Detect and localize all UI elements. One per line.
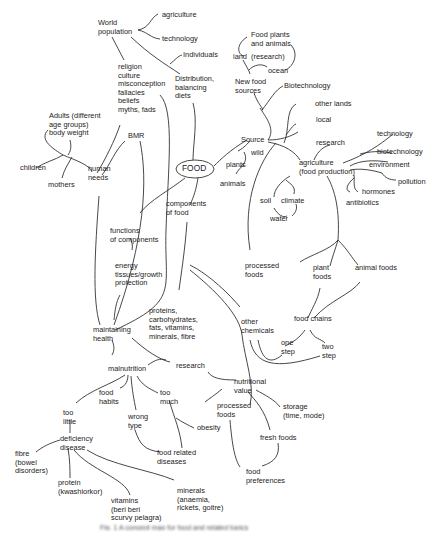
node-bmr: BMR bbox=[128, 132, 144, 141]
node-functions: functions of components bbox=[110, 227, 158, 244]
node-land: land bbox=[233, 53, 247, 62]
concept-map: World population agriculture technology … bbox=[0, 0, 440, 537]
node-components: components of food bbox=[166, 200, 206, 217]
node-mothers: mothers bbox=[48, 181, 75, 190]
node-fresh-foods: fresh foods bbox=[260, 434, 297, 443]
node-deficiency-disease: deficiency disease bbox=[60, 435, 93, 452]
node-energy: energy tissues/growth protection bbox=[115, 262, 162, 288]
node-wild: wild bbox=[251, 149, 264, 158]
node-research-paren: (research) bbox=[251, 53, 285, 62]
node-new-food-sources: New food sources bbox=[235, 78, 266, 95]
node-vitamins: vitamins (beri beri scurvy pelagra) bbox=[111, 497, 162, 523]
node-adults: Adults (different age groups) body weigh… bbox=[49, 112, 101, 138]
node-malnutrition: malnutrition bbox=[108, 365, 146, 374]
node-animals: animals bbox=[220, 180, 245, 189]
node-protein: protein (kwashiorkor) bbox=[58, 479, 102, 496]
node-food-central: FOOD bbox=[182, 164, 206, 173]
node-other-chemicals: other chemicals bbox=[241, 318, 274, 335]
node-environment: environment bbox=[369, 161, 410, 170]
node-food-habits: food habits bbox=[99, 389, 119, 406]
node-other-lands: other lands bbox=[315, 100, 352, 109]
node-too-little: too little bbox=[63, 409, 76, 426]
node-plants: plants bbox=[226, 161, 246, 170]
node-food-chains: food chains bbox=[294, 315, 332, 324]
node-animal-foods: animal foods bbox=[355, 264, 397, 273]
node-children: children bbox=[20, 164, 46, 173]
node-plant-foods: plant foods bbox=[313, 264, 331, 281]
node-individuals: Individuals bbox=[183, 51, 218, 60]
node-fibre: fibre (bowel disorders) bbox=[15, 450, 48, 476]
node-one-step: one step bbox=[281, 339, 295, 356]
node-antibiotics: antibiotics bbox=[346, 199, 379, 208]
node-ocean: ocean bbox=[268, 67, 288, 76]
node-too-much: too much bbox=[160, 389, 178, 406]
node-local: local bbox=[316, 116, 331, 125]
node-water: water bbox=[270, 215, 288, 224]
figure-caption: Fig. 1 A concept map for food and relate… bbox=[100, 524, 350, 530]
node-two-step: two step bbox=[322, 343, 336, 360]
node-agriculture-production: agriculture (food production) bbox=[299, 159, 355, 176]
node-religion-culture: religion culture misconception fallacies… bbox=[118, 63, 165, 115]
node-distribution: Distribution, balancing diets bbox=[175, 75, 214, 101]
node-soil: soil bbox=[260, 197, 271, 206]
node-nutrients-list: proteins, carbohydrates, fats, vitamins,… bbox=[149, 307, 198, 341]
node-technology-right: technology bbox=[377, 130, 413, 139]
node-agriculture-top: agriculture bbox=[162, 11, 197, 20]
node-maintaining-health: maintaining health bbox=[93, 326, 131, 343]
node-processed-top: processed foods bbox=[245, 262, 279, 279]
node-technology-top: technology bbox=[162, 35, 198, 44]
node-research-lower: research bbox=[176, 362, 205, 371]
node-source: Source bbox=[241, 136, 264, 145]
node-research-agriculture: research bbox=[316, 139, 345, 148]
node-biotechnology-right: biotechnology bbox=[377, 148, 423, 157]
node-wrong-type: wrong type bbox=[128, 413, 148, 430]
node-food-preferences: food preferences bbox=[246, 468, 285, 485]
node-world-population: World population bbox=[98, 19, 132, 36]
node-pollution: pollution bbox=[398, 178, 426, 187]
node-obesity: obesity bbox=[197, 424, 220, 433]
node-storage: storage (time, mode) bbox=[283, 403, 324, 420]
node-biotechnology-top: Biotechnology bbox=[284, 82, 330, 91]
node-food-related-diseases: food related diseases bbox=[157, 449, 196, 466]
node-human-needs: human needs bbox=[88, 165, 111, 182]
node-hormones: hormones bbox=[362, 188, 395, 197]
node-processed-lower: processed foods bbox=[217, 402, 251, 419]
node-minerals: minerals (anaemia, rickets, goitre) bbox=[177, 487, 223, 513]
node-climate: climate bbox=[281, 197, 304, 206]
node-nutritional-value: nutritional value bbox=[234, 378, 266, 395]
node-food-plants-animals: Food plants and animals bbox=[251, 31, 291, 48]
